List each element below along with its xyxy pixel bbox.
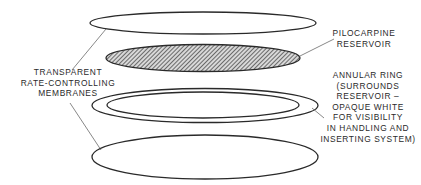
ring-label-line-7: INSERTING SYSTEM) [315, 134, 421, 145]
ring-label-line-5: FOR VISIBILITY [315, 112, 421, 123]
ring-label-line-1: ANNULAR RING [315, 70, 421, 81]
pilocarpine-reservoir [106, 45, 300, 72]
reservoir-label-line-2: RESERVOIR [328, 39, 400, 50]
ring-label-line-3: RESERVOIR – [315, 91, 421, 102]
membranes-label-line-1: TRANSPARENT [18, 67, 118, 78]
leader-line-top-membrane [72, 29, 106, 70]
reservoir-label-line-1: PILOCARPINE [328, 28, 400, 39]
annular-ring-label: ANNULAR RING (SURROUNDS RESERVOIR – OPAQ… [315, 70, 421, 144]
membranes-label-line-2: RATE-CONTROLLING [18, 78, 118, 89]
membranes-label: TRANSPARENT RATE-CONTROLLING MEMBRANES [18, 67, 118, 99]
bottom-membrane [92, 135, 318, 179]
ring-label-line-4: OPAQUE WHITE [315, 102, 421, 113]
reservoir-label: PILOCARPINE RESERVOIR [328, 28, 400, 49]
ring-label-line-2: (SURROUNDS [315, 81, 421, 92]
ring-label-line-6: IN HANDLING AND [315, 123, 421, 134]
annular-ring-inner-edge [107, 92, 299, 118]
top-membrane [90, 12, 316, 34]
membranes-label-line-3: MEMBRANES [18, 88, 118, 99]
